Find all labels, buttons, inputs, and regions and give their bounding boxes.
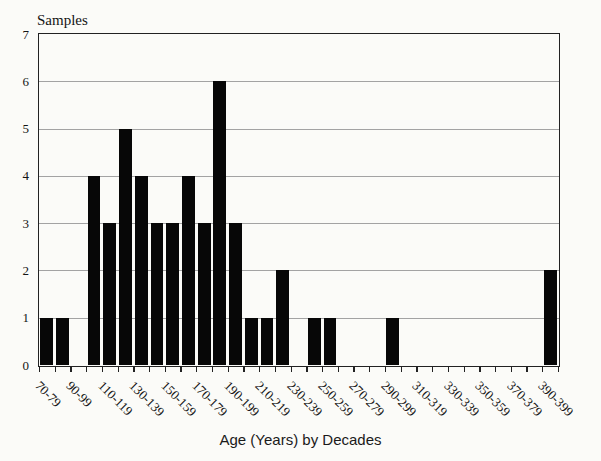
bar — [119, 129, 132, 365]
x-axis-tick — [306, 367, 307, 372]
bar — [261, 318, 274, 365]
x-axis-tick — [196, 367, 197, 372]
y-tick-label: 6 — [5, 74, 29, 90]
x-axis-tick — [558, 367, 559, 372]
x-axis-tick — [243, 367, 244, 372]
y-tick-label: 2 — [5, 263, 29, 279]
x-axis-tick — [526, 367, 527, 372]
bar — [40, 318, 53, 365]
y-tick-label: 7 — [5, 27, 29, 43]
bar — [544, 270, 557, 365]
y-gridline — [39, 270, 559, 271]
x-tick-label: 390-399 — [535, 378, 577, 420]
x-axis-tick — [291, 367, 292, 372]
x-axis-tick — [385, 367, 386, 372]
x-axis-tick — [133, 367, 134, 372]
y-gridline — [39, 176, 559, 177]
x-tick-label: 70-79 — [32, 378, 65, 411]
x-axis-tick — [55, 367, 56, 372]
bar — [245, 318, 258, 365]
bar — [88, 176, 101, 365]
y-tick-label: 3 — [5, 216, 29, 232]
y-tick-label: 1 — [5, 310, 29, 326]
x-axis-tick — [180, 367, 181, 372]
y-tick-label: 5 — [5, 121, 29, 137]
y-tick-label: 4 — [5, 168, 29, 184]
x-axis-tick — [353, 367, 354, 372]
y-gridline — [39, 318, 559, 319]
x-axis-tick — [322, 367, 323, 372]
x-axis-tick — [86, 367, 87, 372]
x-axis-tick — [495, 367, 496, 372]
plot-area — [38, 33, 560, 367]
bar — [276, 270, 289, 365]
x-axis-tick — [401, 367, 402, 372]
y-gridline — [39, 81, 559, 82]
x-axis-tick — [479, 367, 480, 372]
bar — [198, 223, 211, 365]
bar — [151, 223, 164, 365]
x-axis-tick — [259, 367, 260, 372]
y-gridline — [39, 223, 559, 224]
x-axis-tick — [542, 367, 543, 372]
x-axis-tick — [448, 367, 449, 372]
x-axis-tick — [228, 367, 229, 372]
bar — [229, 223, 242, 365]
y-axis-title: Samples — [37, 12, 88, 29]
x-axis-tick — [118, 367, 119, 372]
bar — [308, 318, 321, 365]
x-axis-tick — [212, 367, 213, 372]
x-axis-tick — [511, 367, 512, 372]
x-axis-tick — [338, 367, 339, 372]
bar — [103, 223, 116, 365]
bar — [182, 176, 195, 365]
x-axis-tick — [165, 367, 166, 372]
x-axis-tick — [369, 367, 370, 372]
y-tick-label: 0 — [5, 358, 29, 374]
x-axis-tick — [149, 367, 150, 372]
x-axis-title: Age (Years) by Decades — [0, 431, 601, 448]
bar — [213, 81, 226, 365]
y-gridline — [39, 129, 559, 130]
x-axis-tick — [102, 367, 103, 372]
bar — [135, 176, 148, 365]
bar — [324, 318, 337, 365]
bar — [166, 223, 179, 365]
x-axis-tick — [464, 367, 465, 372]
x-tick-label: 90-99 — [63, 378, 96, 411]
histogram-chart: Samples Age (Years) by Decades 012345677… — [0, 0, 601, 461]
bar — [56, 318, 69, 365]
x-axis-tick — [275, 367, 276, 372]
x-axis-tick — [39, 367, 40, 372]
x-axis-tick — [70, 367, 71, 372]
x-axis-tick — [432, 367, 433, 372]
x-axis-tick — [416, 367, 417, 372]
bar — [386, 318, 399, 365]
